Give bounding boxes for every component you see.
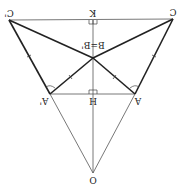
segment-c-b (93, 19, 173, 58)
label-c-prime: C' (4, 8, 13, 18)
label-c: C (169, 7, 176, 17)
label-b: B=B' (81, 40, 104, 50)
label-a: A (134, 96, 142, 106)
label-o: O (89, 175, 96, 185)
geometry-diagram: C' C K B=B' A' A H O (0, 0, 179, 189)
segment-a-prime-b (50, 58, 93, 94)
segment-a-prime-o (50, 94, 93, 173)
label-h: H (89, 96, 97, 106)
segment-c-prime-a-prime (9, 20, 50, 94)
label-a-prime: A' (40, 96, 50, 106)
label-k: K (89, 8, 96, 18)
segment-a-b (93, 58, 135, 94)
segment-c-a (135, 19, 173, 94)
segment-c-prime-c (9, 19, 173, 20)
segment-c-prime-b (9, 20, 93, 58)
segment-a-o (93, 94, 135, 173)
